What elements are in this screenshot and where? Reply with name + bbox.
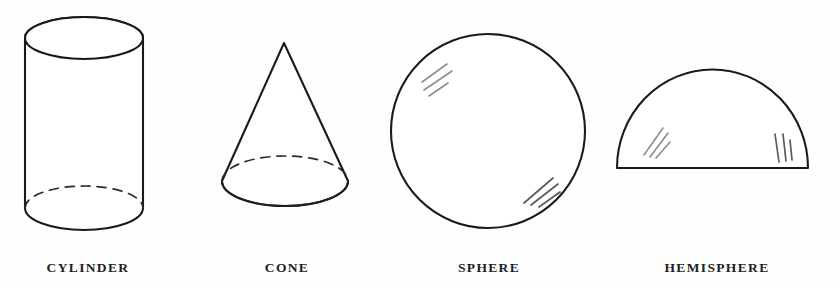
cone-label: CONE: [265, 260, 309, 275]
solids-illustration: CYLINDER CONE: [0, 0, 840, 288]
figure-cylinder: CYLINDER: [25, 17, 143, 275]
figure-hemisphere: HEMISPHERE: [617, 69, 808, 275]
cone-body: [222, 43, 348, 206]
sphere-label: SPHERE: [458, 260, 520, 275]
sphere-outline: [391, 34, 585, 228]
hemisphere-label: HEMISPHERE: [664, 260, 769, 275]
figure-cone: CONE: [222, 43, 348, 275]
cylinder-label: CYLINDER: [47, 260, 130, 275]
figure-plate: CYLINDER CONE: [0, 0, 840, 288]
figure-sphere: SPHERE: [391, 34, 585, 275]
cylinder-top-face: [25, 17, 143, 59]
